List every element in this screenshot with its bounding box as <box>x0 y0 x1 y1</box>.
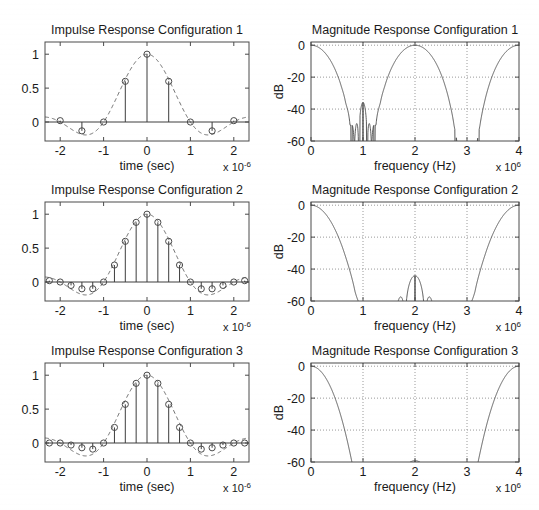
exponent-base: x 10 <box>496 482 517 494</box>
x-tick-label: 2 <box>230 144 237 158</box>
x-tick-label: 1 <box>187 144 194 158</box>
y-tick-label: 0 <box>32 116 39 130</box>
x-tick-label: -2 <box>55 465 66 479</box>
panel-impulse-1: Impulse Response Configuration 1-2-10120… <box>22 23 252 173</box>
exponent-power: 6 <box>517 160 522 169</box>
y-tick-label: -40 <box>287 263 305 277</box>
panel-title-magnitude-3: Magnitude Response Configuration 3 <box>312 344 518 358</box>
y-tick-label: 0 <box>32 276 39 290</box>
panel-magnitude-2: Magnitude Response Configuration 201234-… <box>272 183 523 333</box>
panel-title-magnitude-2: Magnitude Response Configuration 2 <box>312 183 518 197</box>
y-axis-label: dB <box>272 244 286 259</box>
exponent-power: -6 <box>244 320 252 329</box>
exponent-power: -6 <box>244 481 252 490</box>
x-tick-label: 3 <box>464 465 471 479</box>
exponent-power: -6 <box>244 160 252 169</box>
y-tick-label: 0 <box>298 199 305 213</box>
axis-exponent-label: x 106 <box>496 320 522 333</box>
y-tick-label: 0 <box>32 437 39 451</box>
axis-exponent-label: x 10-6 <box>223 160 251 173</box>
y-tick-label: -40 <box>287 424 305 438</box>
panel-magnitude-3: Magnitude Response Configuration 301234-… <box>272 344 523 494</box>
x-tick-label: 0 <box>144 304 151 318</box>
exponent-power: 6 <box>517 481 522 490</box>
x-tick-label: 2 <box>230 304 237 318</box>
y-tick-label: -20 <box>287 392 305 406</box>
x-tick-label: 4 <box>516 465 523 479</box>
x-axis-label: frequency (Hz) <box>374 319 456 333</box>
x-tick-label: 0 <box>308 144 315 158</box>
axis-exponent-label: x 10-6 <box>223 320 251 333</box>
exponent-base: x 10 <box>496 321 517 333</box>
x-tick-label: 1 <box>360 465 367 479</box>
exponent-power: 6 <box>517 320 522 329</box>
panel-impulse-3: Impulse Response Configuration 3-2-10120… <box>22 344 252 494</box>
x-tick-label: 3 <box>464 144 471 158</box>
x-tick-label: 1 <box>360 304 367 318</box>
exponent-base: x 10 <box>223 482 244 494</box>
exponent-base: x 10 <box>496 161 517 173</box>
axis-exponent-label: x 106 <box>496 160 522 173</box>
x-tick-label: 0 <box>308 304 315 318</box>
x-tick-label: 1 <box>187 465 194 479</box>
panel-title-impulse-2: Impulse Response Configuration 2 <box>51 183 243 197</box>
y-tick-label: -60 <box>287 135 305 149</box>
y-tick-label: -20 <box>287 231 305 245</box>
x-tick-label: 1 <box>187 304 194 318</box>
x-tick-label: 0 <box>308 465 315 479</box>
panel-title-impulse-1: Impulse Response Configuration 1 <box>51 23 243 37</box>
x-tick-label: -1 <box>98 465 109 479</box>
x-tick-label: -1 <box>98 144 109 158</box>
y-tick-label: 0.5 <box>22 242 39 256</box>
y-tick-label: 1 <box>32 369 39 383</box>
axis-exponent-label: x 106 <box>496 481 522 494</box>
plot-data-impulse-2 <box>45 211 249 295</box>
x-axis-label: frequency (Hz) <box>374 159 456 173</box>
x-tick-label: 2 <box>412 144 419 158</box>
x-axis-label: frequency (Hz) <box>374 480 456 494</box>
axis-exponent-label: x 10-6 <box>223 481 251 494</box>
y-tick-label: 0.5 <box>22 82 39 96</box>
x-tick-label: 3 <box>464 304 471 318</box>
plot-data-impulse-3 <box>45 372 249 456</box>
exponent-base: x 10 <box>223 161 244 173</box>
plot-data-impulse-1 <box>45 51 249 135</box>
y-tick-label: -20 <box>287 71 305 85</box>
y-tick-label: 1 <box>32 208 39 222</box>
x-tick-label: -2 <box>55 144 66 158</box>
x-tick-label: 2 <box>412 465 419 479</box>
x-tick-label: 1 <box>360 144 367 158</box>
exponent-base: x 10 <box>223 321 244 333</box>
x-tick-label: 0 <box>144 465 151 479</box>
x-tick-label: 0 <box>144 144 151 158</box>
x-tick-label: 4 <box>516 304 523 318</box>
figure-svg: Impulse Response Configuration 1-2-10120… <box>0 0 539 510</box>
y-axis-label: dB <box>272 405 286 420</box>
y-tick-label: 0.5 <box>22 403 39 417</box>
x-tick-label: 2 <box>230 465 237 479</box>
y-axis-label: dB <box>272 84 286 99</box>
x-tick-label: -1 <box>98 304 109 318</box>
y-tick-label: 0 <box>298 39 305 53</box>
x-tick-label: 2 <box>412 304 419 318</box>
panel-magnitude-1: Magnitude Response Configuration 101234-… <box>272 23 523 173</box>
x-axis-label: time (sec) <box>120 159 175 173</box>
panel-title-magnitude-1: Magnitude Response Configuration 1 <box>312 23 518 37</box>
y-tick-label: 1 <box>32 48 39 62</box>
panel-title-impulse-3: Impulse Response Configuration 3 <box>51 344 243 358</box>
x-tick-label: 4 <box>516 144 523 158</box>
y-tick-label: -40 <box>287 103 305 117</box>
panel-impulse-2: Impulse Response Configuration 2-2-10120… <box>22 183 252 333</box>
y-tick-label: -60 <box>287 456 305 470</box>
x-axis-label: time (sec) <box>120 480 175 494</box>
matlab-figure-canvas: Impulse Response Configuration 1-2-10120… <box>0 0 539 510</box>
x-tick-label: -2 <box>55 304 66 318</box>
y-tick-label: -60 <box>287 295 305 309</box>
y-tick-label: 0 <box>298 360 305 374</box>
x-axis-label: time (sec) <box>120 319 175 333</box>
